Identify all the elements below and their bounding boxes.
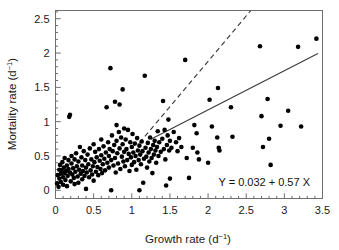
y-tick-label: 2 bbox=[43, 47, 49, 59]
data-point bbox=[192, 123, 197, 128]
data-point bbox=[184, 156, 189, 161]
x-tick-label: 2.5 bbox=[239, 204, 254, 216]
data-point bbox=[120, 87, 125, 92]
data-point bbox=[123, 164, 128, 169]
data-point bbox=[149, 147, 154, 152]
scatter-plot-figure: 00.511.522.533.5 00.511.522.5 Growth rat… bbox=[0, 0, 339, 250]
data-point bbox=[175, 149, 180, 154]
data-point bbox=[132, 160, 137, 165]
y-tick-label: 1.5 bbox=[34, 81, 49, 93]
data-point bbox=[314, 36, 319, 41]
data-point bbox=[126, 128, 131, 133]
data-point bbox=[56, 185, 61, 190]
data-point bbox=[85, 152, 90, 157]
data-point bbox=[113, 156, 118, 161]
y-axis-title-group: Mortality rate (d−1) bbox=[5, 58, 18, 150]
data-point bbox=[60, 160, 65, 165]
data-point bbox=[157, 140, 162, 145]
data-point bbox=[141, 180, 146, 185]
data-point bbox=[139, 139, 144, 144]
data-point bbox=[124, 147, 129, 152]
data-point bbox=[169, 145, 174, 150]
data-point bbox=[116, 161, 121, 166]
data-point bbox=[120, 142, 125, 147]
data-point bbox=[143, 145, 148, 150]
data-point bbox=[118, 167, 123, 172]
data-point bbox=[267, 137, 272, 142]
data-point bbox=[99, 153, 104, 158]
data-point bbox=[216, 86, 221, 91]
data-point bbox=[102, 156, 107, 161]
data-point bbox=[206, 161, 211, 166]
data-point bbox=[171, 130, 176, 135]
data-point bbox=[110, 149, 115, 154]
data-point bbox=[168, 176, 173, 181]
data-point bbox=[107, 165, 112, 170]
data-point bbox=[110, 133, 115, 138]
data-point bbox=[146, 141, 151, 146]
data-point bbox=[83, 158, 88, 163]
data-point bbox=[163, 157, 168, 162]
data-point bbox=[165, 133, 170, 138]
data-point bbox=[164, 183, 169, 188]
data-point bbox=[150, 171, 155, 176]
data-point bbox=[145, 165, 150, 170]
data-point bbox=[84, 187, 89, 192]
data-point bbox=[113, 99, 118, 104]
data-point bbox=[133, 154, 138, 159]
data-point bbox=[79, 155, 84, 160]
data-point bbox=[152, 139, 157, 144]
data-point bbox=[268, 163, 273, 168]
data-point bbox=[258, 44, 263, 49]
data-point bbox=[162, 128, 167, 133]
data-point bbox=[99, 137, 104, 142]
data-point bbox=[76, 159, 81, 164]
data-point bbox=[129, 145, 134, 150]
data-point bbox=[134, 167, 139, 172]
data-point bbox=[187, 176, 192, 181]
y-tick-label: 2.5 bbox=[34, 13, 49, 25]
data-point bbox=[136, 158, 141, 163]
data-point bbox=[78, 145, 83, 150]
data-point bbox=[94, 155, 99, 160]
x-tick-label: 2 bbox=[205, 204, 211, 216]
y-tick-label: 0 bbox=[43, 184, 49, 196]
data-point bbox=[117, 130, 122, 135]
data-point bbox=[114, 123, 119, 128]
x-axis-title: Growth rate (d−1) bbox=[145, 232, 231, 245]
data-point bbox=[168, 139, 173, 144]
data-point bbox=[97, 158, 102, 163]
chart-canvas: 00.511.522.533.5 00.511.522.5 Growth rat… bbox=[0, 0, 339, 250]
data-point bbox=[217, 148, 222, 153]
data-point bbox=[101, 162, 106, 167]
data-point bbox=[115, 151, 120, 156]
data-point bbox=[155, 145, 160, 150]
data-point bbox=[135, 136, 140, 141]
data-point bbox=[261, 145, 266, 150]
data-point bbox=[210, 124, 215, 129]
data-point bbox=[179, 145, 184, 150]
data-point bbox=[136, 148, 141, 153]
data-point bbox=[63, 178, 68, 183]
data-point bbox=[108, 66, 113, 71]
data-point bbox=[88, 146, 93, 151]
data-point bbox=[160, 137, 165, 142]
x-tick-label: 0.5 bbox=[86, 204, 101, 216]
data-point bbox=[113, 170, 118, 175]
data-point bbox=[265, 97, 270, 102]
data-point bbox=[154, 161, 159, 166]
data-point bbox=[191, 145, 196, 150]
data-point bbox=[119, 135, 124, 140]
data-point bbox=[152, 152, 157, 157]
data-point bbox=[125, 158, 130, 163]
data-point bbox=[139, 162, 144, 167]
data-point bbox=[129, 155, 134, 160]
data-point bbox=[107, 154, 112, 159]
data-point bbox=[278, 123, 283, 128]
data-point bbox=[69, 161, 74, 166]
data-point bbox=[133, 141, 138, 146]
data-point bbox=[103, 168, 108, 173]
data-point bbox=[81, 149, 86, 154]
data-point bbox=[140, 149, 145, 154]
x-tick-label: 1 bbox=[129, 204, 135, 216]
